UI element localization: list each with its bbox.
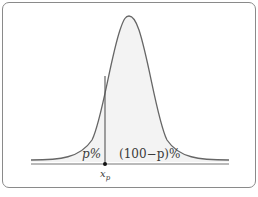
right-area-label: (100−p)%: [119, 147, 180, 161]
percentile-point: [103, 162, 107, 166]
point-label: xp: [100, 168, 111, 182]
left-area-label: p%: [82, 147, 101, 161]
area-under-curve: [31, 16, 229, 162]
normal-curve-diagram: p% (100−p)% xp: [0, 0, 258, 197]
